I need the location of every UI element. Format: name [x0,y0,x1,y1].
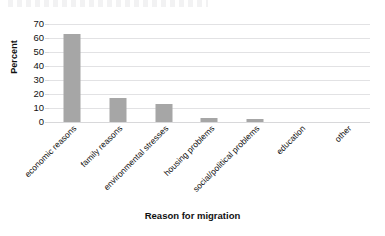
bar-slot [278,24,324,122]
bar-chart: Percent 706050403020100 economic reasons… [0,0,385,236]
plot-area [49,24,370,122]
y-axis-tick-label: 10 [14,103,44,113]
y-axis-tick-label: 30 [14,75,44,85]
y-axis-tick-labels: 706050403020100 [14,24,44,122]
bar-slot [324,24,370,122]
bar-slot [49,24,95,122]
x-axis-tick-labels: economic reasonsfamily reasonsenvironmen… [0,124,385,204]
bar[interactable] [201,118,218,122]
y-axis-tickmark [45,122,49,123]
bar-slot [95,24,141,122]
bar[interactable] [63,34,80,122]
y-axis-tick-label: 20 [14,89,44,99]
y-axis-tick-label: 60 [14,33,44,43]
bar[interactable] [109,98,126,122]
bar[interactable] [247,119,264,122]
bars-group [49,24,370,122]
y-axis-tick-label: 70 [14,19,44,29]
x-axis-title: Reason for migration [0,210,385,221]
y-axis-tick-label: 50 [14,47,44,57]
y-axis-tick-label: 40 [14,61,44,71]
bar-slot [232,24,278,122]
bar-slot [187,24,233,122]
bar-slot [141,24,187,122]
bar[interactable] [155,104,172,122]
